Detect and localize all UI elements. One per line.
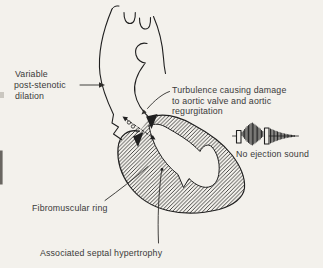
label-no-ejection-sound: No ejection sound [236, 149, 309, 159]
label-post-stenotic-line1: Variable [15, 69, 48, 79]
second-heart-sound-bar [265, 128, 270, 144]
aortic-arch-inner-curve [136, 43, 147, 63]
arch-branch-stubs [124, 13, 151, 30]
scan-edge-smudge [0, 92, 4, 185]
first-heart-sound-bar [237, 131, 242, 144]
label-fibromuscular-ring: Fibromuscular ring [32, 203, 108, 213]
leader-turbulence [142, 92, 170, 115]
label-post-stenotic-line2: post-stenotic [14, 80, 66, 90]
label-turbulence-line3: regurgitation [172, 106, 223, 116]
aorta-inner-wall [135, 64, 150, 119]
aortic-arch-top-tick [112, 6, 119, 9]
label-post-stenotic-line3: dilation [15, 91, 44, 101]
heart-wall-hatching [118, 115, 245, 213]
aorta-right-wall [154, 17, 166, 74]
phonocardiogram-icon [233, 123, 299, 145]
label-turbulence-line1: Turbulence causing damage [172, 85, 286, 95]
systolic-murmur-burst [242, 123, 263, 145]
label-turbulence: Turbulence causing damage to aortic valv… [172, 85, 286, 116]
scanned-figure-page: Variable post-stenotic dilation Turbulen… [0, 0, 323, 268]
heart-diagram-figure: Variable post-stenotic dilation Turbulen… [0, 0, 323, 268]
aorta-left-wall [99, 9, 121, 140]
label-turbulence-line2: to aortic valve and aortic [172, 96, 272, 106]
label-septal-hypertrophy: Associated septal hypertrophy [40, 248, 163, 258]
label-post-stenotic: Variable post-stenotic dilation [14, 69, 66, 101]
